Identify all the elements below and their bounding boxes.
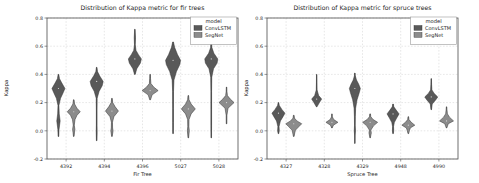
- median-dot: [172, 60, 173, 61]
- x-axis-label: Fir Tree: [133, 171, 152, 177]
- violin-4990: [425, 79, 438, 110]
- median-dot: [446, 120, 447, 121]
- y-tick-label: 0.0: [255, 129, 263, 134]
- x-ticks: 43924394439650275028: [60, 159, 225, 169]
- y-tick-label: 0.2: [255, 100, 263, 105]
- x-tick-label: 4396: [136, 164, 148, 169]
- median-dot: [58, 88, 59, 89]
- median-dot: [150, 90, 151, 91]
- y-tick-label: 0.6: [35, 44, 43, 49]
- y-tick-label: -0.2: [34, 157, 43, 162]
- y-tick-label: 0.4: [35, 72, 43, 77]
- series-segnet: [286, 107, 454, 138]
- y-ticks: -0.20.00.20.40.60.8: [34, 16, 47, 162]
- y-ticks: -0.20.00.20.40.60.8: [254, 16, 267, 162]
- x-ticks: 43274328432949484990: [280, 159, 445, 169]
- median-dot: [278, 113, 279, 114]
- legend-label-segnet: SegNet: [205, 32, 223, 39]
- median-dot: [316, 98, 317, 99]
- violin-5028: [219, 87, 234, 124]
- legend-label-convlstm: ConvLSTM: [205, 25, 231, 31]
- violin-4396: [128, 29, 141, 74]
- x-tick-label: 5027: [175, 164, 187, 169]
- legend-swatch-convlstm: [194, 26, 202, 31]
- violin-4392: [52, 74, 65, 136]
- violin-4394: [90, 67, 103, 140]
- x-tick-label: 4394: [98, 164, 110, 169]
- median-dot: [293, 123, 294, 124]
- plot-title: Distribution of Kappa metric for fir tre…: [81, 4, 205, 12]
- y-tick-label: 0.8: [35, 16, 43, 21]
- y-axis-label: Kappa: [3, 80, 10, 96]
- median-dot: [134, 58, 135, 59]
- legend-title: model: [205, 18, 221, 24]
- median-dot: [111, 110, 112, 111]
- legend-label-convlstm: ConvLSTM: [425, 25, 451, 31]
- legend: model ConvLSTM SegNet: [191, 17, 237, 45]
- plot-title: Distribution of Kappa metric for spruce …: [293, 4, 431, 12]
- violin-4327: [272, 103, 285, 134]
- x-tick-label: 4392: [60, 164, 72, 169]
- median-dot: [370, 122, 371, 123]
- x-tick-label: 4990: [433, 164, 445, 169]
- violin-4392: [67, 100, 80, 137]
- violin-4396: [142, 74, 158, 99]
- median-dot: [408, 125, 409, 126]
- y-tick-label: -0.2: [254, 157, 263, 162]
- y-tick-label: 0.2: [35, 100, 43, 105]
- x-tick-label: 4328: [318, 164, 330, 169]
- y-tick-label: 0.0: [35, 129, 43, 134]
- legend: model ConvLSTM SegNet: [411, 17, 457, 45]
- y-axis-label: Kappa: [243, 80, 250, 96]
- median-dot: [96, 81, 97, 82]
- legend-swatch-segnet: [194, 33, 202, 38]
- violin-4394: [105, 98, 118, 136]
- legend-swatch-segnet: [414, 33, 422, 38]
- series-convlstm: [272, 73, 438, 144]
- median-dot: [188, 108, 189, 109]
- y-tick-label: 0.4: [255, 72, 263, 77]
- median-dot: [211, 58, 212, 59]
- y-tick-label: 0.6: [255, 44, 263, 49]
- median-dot: [431, 96, 432, 97]
- violin-4329: [349, 73, 360, 144]
- median-dot: [73, 111, 74, 112]
- violin-5028: [205, 41, 218, 138]
- violin-5027: [166, 42, 181, 134]
- legend-label-segnet: SegNet: [425, 32, 443, 39]
- x-tick-label: 4329: [356, 164, 368, 169]
- x-tick-label: 4948: [395, 164, 407, 169]
- violin-5027: [181, 96, 195, 138]
- x-axis-label: Spruce Tree: [347, 171, 378, 178]
- median-dot: [331, 122, 332, 123]
- violin-4328: [326, 114, 338, 128]
- figure: -0.20.00.20.40.60.843924394439650275028 …: [0, 0, 479, 183]
- legend-title: model: [425, 18, 441, 24]
- y-tick-label: 0.8: [255, 16, 263, 21]
- violin-4327: [286, 115, 302, 136]
- violin-4329: [363, 114, 378, 138]
- violin-4328: [312, 74, 322, 106]
- x-tick-label: 4327: [280, 164, 292, 169]
- median-dot: [226, 102, 227, 103]
- legend-swatch-convlstm: [414, 26, 422, 31]
- x-tick-label: 5028: [213, 164, 225, 169]
- violin-4948: [387, 104, 399, 134]
- violin-figure: -0.20.00.20.40.60.843924394439650275028 …: [0, 0, 479, 183]
- violin-4990: [440, 107, 454, 128]
- median-dot: [354, 88, 355, 89]
- median-dot: [392, 113, 393, 114]
